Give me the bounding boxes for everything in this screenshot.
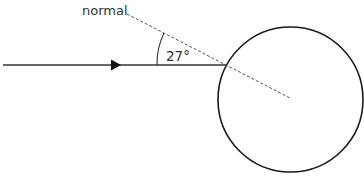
angle-label: 27° <box>166 48 190 64</box>
normal-label: normal <box>82 3 128 18</box>
sphere-circle <box>218 27 363 172</box>
arrow-head-icon <box>111 60 121 71</box>
normal-line <box>127 14 290 98</box>
diagram-canvas: normal 27° <box>0 0 364 176</box>
angle-arc <box>157 33 164 65</box>
